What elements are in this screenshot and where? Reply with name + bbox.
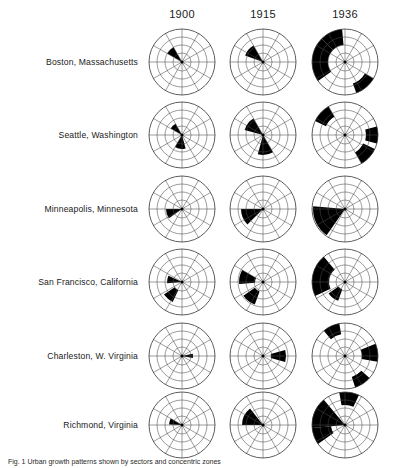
- row-label-5: Richmond, Virginia: [63, 420, 138, 430]
- polar-chart-r1-c0: [149, 102, 215, 168]
- chart-center-hub: [344, 281, 347, 284]
- chart-center-hub: [181, 134, 184, 137]
- chart-center-hub: [344, 208, 347, 211]
- row-label-2: Minneapolis, Minnesota: [44, 204, 138, 214]
- polar-chart-r0-c1: [230, 29, 296, 95]
- polar-chart-r3-c0: [149, 249, 215, 315]
- row-label-1: Seattle, Washington: [59, 130, 139, 140]
- polar-chart-r4-c2: [312, 323, 378, 389]
- polar-chart-r2-c1: [230, 176, 296, 242]
- column-header-1936: 1936: [332, 8, 358, 20]
- chart-center-hub: [262, 281, 265, 284]
- polar-chart-r1-c1: [230, 102, 296, 168]
- chart-center-hub: [262, 134, 265, 137]
- column-header-1915: 1915: [250, 8, 276, 20]
- figure-caption: Fig. 1 Urban growth patterns shown by se…: [8, 458, 221, 466]
- chart-center-hub: [181, 208, 184, 211]
- chart-center-hub: [262, 208, 265, 211]
- column-header-1900: 1900: [169, 8, 195, 20]
- chart-center-hub: [262, 61, 265, 64]
- polar-chart-r3-c2: [312, 249, 378, 315]
- polar-chart-r1-c2: [312, 102, 378, 168]
- chart-center-hub: [344, 134, 347, 137]
- chart-center-hub: [344, 424, 347, 427]
- row-label-3: San Francisco, California: [38, 277, 138, 287]
- chart-center-hub: [181, 424, 184, 427]
- chart-center-hub: [181, 281, 184, 284]
- row-label-0: Boston, Massachusetts: [46, 57, 138, 67]
- chart-center-hub: [181, 355, 184, 358]
- chart-center-hub: [262, 424, 265, 427]
- polar-chart-r3-c1: [230, 249, 296, 315]
- chart-center-hub: [344, 61, 347, 64]
- polar-chart-r2-c0: [149, 176, 215, 242]
- polar-chart-r4-c0: [149, 323, 215, 389]
- chart-center-hub: [181, 61, 184, 64]
- polar-chart-r0-c0: [149, 29, 215, 95]
- polar-chart-r5-c1: [230, 392, 296, 458]
- chart-center-hub: [262, 355, 265, 358]
- row-label-4: Charleston, W. Virginia: [47, 351, 138, 361]
- polar-chart-r2-c2: [312, 176, 378, 242]
- polar-chart-r4-c1: [230, 323, 296, 389]
- polar-chart-grid-figure: 190019151936 Boston, MassachusettsSeattl…: [0, 0, 400, 468]
- polar-chart-r0-c2: [312, 29, 378, 95]
- polar-chart-r5-c2: [312, 392, 378, 458]
- polar-chart-r5-c0: [149, 392, 215, 458]
- chart-center-hub: [344, 355, 347, 358]
